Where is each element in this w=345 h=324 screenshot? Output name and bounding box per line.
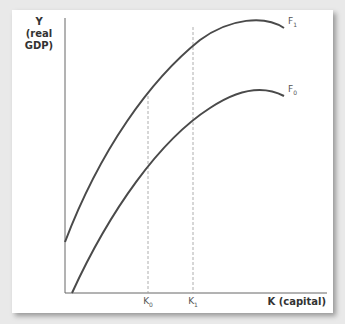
tick-k0-sub: 0	[149, 301, 153, 308]
f0-label-sub: 0	[293, 89, 297, 96]
tick-k1-sub: 1	[194, 301, 198, 308]
f1-label: F1	[288, 16, 297, 28]
y-axis-label: Y (real GDP)	[14, 16, 64, 52]
tick-k1: K1	[188, 296, 198, 308]
f1-label-sub: 1	[293, 21, 297, 28]
y-axis-label-sub: (real GDP)	[14, 28, 64, 52]
x-axis-label: K (capital)	[267, 296, 326, 307]
f0-label: F0	[288, 84, 297, 96]
f1-curve	[65, 20, 284, 242]
tick-k0: K0	[143, 296, 153, 308]
y-axis-label-main: Y	[14, 16, 64, 28]
f0-curve	[72, 90, 284, 293]
